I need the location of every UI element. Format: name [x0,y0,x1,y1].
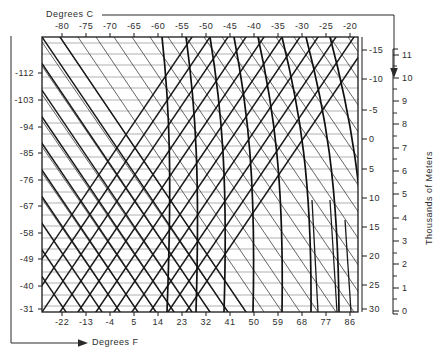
left-tick-label: -112 [15,69,34,78]
top-tick-label: -65 [127,22,141,31]
right-outer-axis [393,49,399,314]
right-outer-tick-label: 5 [402,190,407,199]
top-tick-label: -80 [55,22,69,31]
left-tick-label: -58 [20,229,34,238]
figure-canvas: Degrees C -80 -75 -70 -65 -60 -55 -50 -4… [0,0,435,355]
top-tick-label: -20 [343,22,357,31]
top-tick-label: -50 [199,22,213,31]
left-tick-label: -94 [20,123,34,132]
bottom-tick-label: -13 [79,318,93,327]
top-axis-title: Degrees C [46,10,94,19]
top-tick-label: -60 [151,22,165,31]
bottom-tick-label: 68 [297,318,308,327]
left-tick-label: -76 [20,176,34,185]
right-inner-tick-label: 30 [369,305,380,314]
right-outer-tick-label: 1 [402,284,407,293]
bottom-tick-label: 59 [273,318,284,327]
degrees-f-arrowhead [78,339,88,346]
degrees-c-arrowhead [390,68,398,78]
bottom-tick-label: 77 [321,318,332,327]
right-outer-tick-label: 10 [402,74,413,83]
right-inner-tick-label: 0 [369,135,374,144]
left-tick-label: -103 [14,96,34,105]
right-inner-tick-label: -5 [369,106,378,115]
bottom-tick-label: -4 [106,318,115,327]
top-tick-label: -25 [319,22,333,31]
right-axis-title: Thousands of Meters [425,151,434,245]
right-inner-tick-label: -10 [369,75,383,84]
left-tick-label: -40 [20,282,34,291]
bottom-tick-label: 50 [249,318,260,327]
right-outer-tick-label: 3 [402,237,407,246]
top-tick-label: -75 [79,22,93,31]
top-tick-label: -55 [175,22,189,31]
bottom-axis-title: Degrees F [92,338,139,347]
left-tick-label: -85 [20,149,34,158]
top-tick-label: -35 [271,22,285,31]
bottom-tick-label: 23 [177,318,188,327]
right-outer-tick-label: 9 [402,97,407,106]
bottom-tick-label: 86 [345,318,356,327]
right-inner-axis [362,37,367,312]
bottom-tick-label: -22 [55,318,69,327]
bottom-tick-label: 14 [153,318,164,327]
top-tick-label: -70 [103,22,117,31]
right-outer-tick-label: 0 [402,307,407,316]
top-tick-label: -45 [223,22,237,31]
right-outer-tick-label: 4 [402,214,407,223]
left-tick-label: -67 [20,202,34,211]
right-inner-tick-label: 20 [369,252,380,261]
right-inner-tick-label: 5 [369,165,374,174]
right-outer-tick-label: 11 [402,51,412,60]
bottom-tick-label: 32 [201,318,212,327]
right-outer-tick-label: 7 [402,144,407,153]
bottom-tick-label: 41 [225,318,236,327]
right-inner-tick-label: 10 [369,194,380,203]
right-inner-tick-label: 15 [369,223,380,232]
right-outer-tick-label: 2 [402,260,407,269]
left-tick-label: -49 [20,255,34,264]
bottom-tick-label: 5 [131,318,136,327]
right-outer-tick-label: 8 [402,120,407,129]
top-tick-label: -30 [295,22,309,31]
left-tick-label: -31 [20,305,34,314]
right-inner-tick-label: -15 [369,46,383,55]
top-tick-label: -40 [247,22,261,31]
right-outer-tick-label: 6 [402,167,407,176]
right-inner-tick-label: 25 [369,281,380,290]
